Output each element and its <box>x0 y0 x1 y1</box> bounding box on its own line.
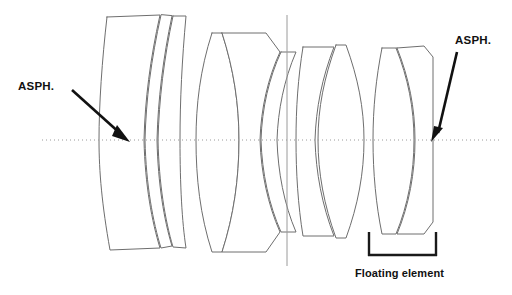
lens-cross-section-canvas: ASPH. ASPH. Floating element <box>0 0 512 295</box>
asph-right-label: ASPH. <box>455 34 491 46</box>
asph-left-label: ASPH. <box>18 80 54 92</box>
asph-right-annotation <box>431 52 457 142</box>
lens-diagram-figure: ASPH. ASPH. Floating element <box>0 0 512 295</box>
floating-element-bracket <box>368 232 437 256</box>
floating-element-label: Floating element <box>355 267 444 279</box>
asph-right-leader-line <box>438 52 457 133</box>
